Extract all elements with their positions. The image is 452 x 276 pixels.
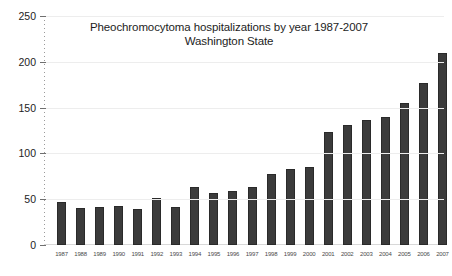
bar xyxy=(114,206,123,245)
y-axis-tick-label: 150 xyxy=(2,103,36,113)
bar xyxy=(171,207,180,245)
bar xyxy=(400,103,409,245)
y-axis-tick-label: 50 xyxy=(2,194,36,204)
bar-chart: Pheochromocytoma hospitalizations by yea… xyxy=(0,0,452,276)
bar xyxy=(95,207,104,245)
y-axis-tick-label: 0 xyxy=(2,240,36,250)
gridline xyxy=(44,16,444,17)
gridline xyxy=(44,62,444,63)
y-axis-tick xyxy=(40,245,46,246)
bar xyxy=(362,120,371,245)
bar xyxy=(343,125,352,245)
gridline xyxy=(44,108,444,109)
gridline xyxy=(44,153,444,154)
y-axis-tick-label: 100 xyxy=(2,148,36,158)
gridline xyxy=(44,199,444,200)
y-axis-tick-label: 250 xyxy=(2,11,36,21)
y-axis-tick-label: 200 xyxy=(2,57,36,67)
x-axis-tick-label: 2007 xyxy=(427,250,452,258)
bar xyxy=(209,193,218,245)
y-axis-tick xyxy=(40,108,46,109)
bar xyxy=(152,198,161,245)
y-axis-tick xyxy=(40,16,46,17)
y-axis-tick xyxy=(40,153,46,154)
bar xyxy=(267,174,276,245)
bar xyxy=(438,53,447,245)
bar xyxy=(248,187,257,245)
bar xyxy=(381,117,390,245)
bar-series xyxy=(44,16,444,245)
bar xyxy=(57,202,66,245)
y-axis-tick xyxy=(40,199,46,200)
plot-area xyxy=(44,16,444,245)
bar xyxy=(324,132,333,245)
x-axis-tick-labels: 1987198819891990199119921993199419951996… xyxy=(44,250,444,262)
bar xyxy=(305,167,314,245)
bar xyxy=(286,169,295,245)
bar xyxy=(76,208,85,245)
y-axis-tick xyxy=(40,62,46,63)
bar xyxy=(133,209,142,245)
bar xyxy=(190,187,199,245)
